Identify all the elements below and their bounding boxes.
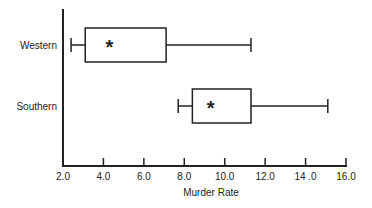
axes: [62, 9, 347, 167]
x-tick-label: 12.0: [255, 171, 275, 182]
iqr-box: [85, 28, 166, 62]
x-tick-label: 16.0: [336, 171, 356, 182]
category-labels: WesternSouthern: [16, 40, 57, 112]
mean-star-icon: *: [207, 97, 215, 119]
x-axis-ticks: [103, 158, 346, 166]
x-tick-label: 6.0: [137, 171, 151, 182]
x-axis-title: Murder Rate: [183, 187, 239, 198]
box-western: *: [71, 28, 251, 62]
x-tick-label: 8.0: [177, 171, 191, 182]
mean-star-icon: *: [106, 36, 114, 58]
category-label: Western: [20, 40, 57, 51]
x-tick-label: 10.0: [215, 171, 235, 182]
x-tick-label: 4.0: [96, 171, 110, 182]
category-label: Southern: [16, 101, 57, 112]
x-tick-label: 14 .0: [294, 171, 317, 182]
box-plot-chart: 2.04.06.08.010.012.014 .016.0 ** Western…: [0, 0, 372, 208]
box-southern: *: [178, 89, 328, 123]
boxes: **: [71, 28, 328, 123]
x-axis-tick-labels: 2.04.06.08.010.012.014 .016.0: [56, 171, 356, 182]
x-tick-label: 2.0: [56, 171, 70, 182]
iqr-box: [192, 89, 251, 123]
